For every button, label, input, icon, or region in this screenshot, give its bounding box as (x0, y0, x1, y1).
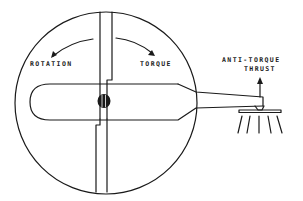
thrust-arrow-icon (257, 77, 263, 84)
tail-boom-upper (178, 84, 263, 106)
anti-torque-label: ANTI-TORQUE (222, 57, 280, 64)
rotation-arrowhead (51, 51, 57, 58)
rotation-label: ROTATION (30, 61, 73, 68)
helicopter-diagram (0, 0, 303, 201)
thrust-spray-lines (238, 116, 282, 133)
rotation-arrow-icon (53, 39, 93, 56)
rotor-blade-lower (96, 119, 100, 192)
torque-label: TORQUE (140, 61, 172, 68)
tail-rotor-bar (239, 110, 281, 113)
thrust-label: THRUST (244, 66, 276, 73)
rotor-hub-icon (98, 94, 111, 108)
torque-arrow-icon (116, 38, 152, 53)
fuselage-outline (30, 84, 263, 120)
